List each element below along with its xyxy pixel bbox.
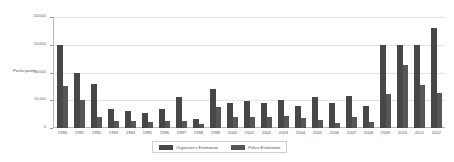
bar-police: [437, 93, 442, 128]
x-tick-label: 1990: [54, 130, 71, 135]
bar-group: [326, 17, 343, 128]
legend-item[interactable]: Police Estimation: [231, 145, 280, 150]
y-tick-mark: [50, 128, 53, 129]
bar-police: [182, 121, 187, 128]
x-tick-label: 2009: [377, 130, 394, 135]
bar-group: [173, 17, 190, 128]
bar-group: [207, 17, 224, 128]
bar-police: [148, 122, 153, 128]
bar-police: [335, 123, 340, 128]
bar-group: [275, 17, 292, 128]
bar-group: [258, 17, 275, 128]
bar-police: [199, 124, 204, 128]
bar-group: [156, 17, 173, 128]
bar-group: [224, 17, 241, 128]
x-tick-label: 2005: [309, 130, 326, 135]
legend-label: Police Estimation: [248, 145, 280, 150]
bar-police: [97, 117, 102, 128]
bar-group: [428, 17, 445, 128]
bar-group: [241, 17, 258, 128]
bar-group: [190, 17, 207, 128]
bar-police: [267, 117, 272, 128]
bar-group: [71, 17, 88, 128]
x-tick-label: 2001: [241, 130, 258, 135]
bar-police: [165, 121, 170, 128]
bar-police: [233, 117, 238, 128]
bar-police: [318, 120, 323, 128]
bar-group: [343, 17, 360, 128]
x-tick-label: 2003: [275, 130, 292, 135]
bar-group: [88, 17, 105, 128]
bar-police: [131, 121, 136, 128]
y-tick-label: 50,000: [34, 98, 46, 102]
bar-police: [63, 86, 68, 128]
x-tick-label: 2000: [224, 130, 241, 135]
x-tick-label: 2006: [326, 130, 343, 135]
bar-group: [122, 17, 139, 128]
x-tick-label: 1991: [71, 130, 88, 135]
bar-police: [403, 65, 408, 128]
bar-chart: 050,000100000150000200000 Participants 1…: [0, 0, 454, 162]
x-tick-label: 1997: [173, 130, 190, 135]
legend-swatch-icon: [231, 145, 245, 150]
legend-label: Organiser's Estimation: [176, 145, 218, 150]
bar-group: [309, 17, 326, 128]
bar-police: [369, 122, 374, 128]
x-tick-label: 2002: [258, 130, 275, 135]
bar-group: [54, 17, 71, 128]
x-tick-label: 2011: [411, 130, 428, 135]
bar-police: [114, 121, 119, 128]
x-tick-label: 1995: [139, 130, 156, 135]
x-tick-label: 1999: [207, 130, 224, 135]
bar-police: [216, 107, 221, 128]
x-tick-label: 1994: [122, 130, 139, 135]
bar-police: [250, 117, 255, 128]
x-axis: 1990199119921993199419951996199719981999…: [54, 130, 445, 135]
bar-group: [377, 17, 394, 128]
y-axis-title: Participants: [13, 68, 37, 73]
bar-police: [80, 100, 85, 128]
bar-group: [411, 17, 428, 128]
bars-layer: [54, 17, 445, 128]
x-tick-label: 1998: [190, 130, 207, 135]
x-tick-label: 2004: [292, 130, 309, 135]
bar-police: [386, 94, 391, 128]
legend-swatch-icon: [159, 145, 173, 150]
bar-group: [139, 17, 156, 128]
x-tick-label: 1992: [88, 130, 105, 135]
bar-group: [105, 17, 122, 128]
x-tick-label: 2010: [394, 130, 411, 135]
y-tick-label: 150000: [33, 43, 46, 47]
x-tick-label: 1993: [105, 130, 122, 135]
x-tick-label: 2007: [343, 130, 360, 135]
bar-police: [352, 117, 357, 128]
bar-group: [292, 17, 309, 128]
bar-group: [394, 17, 411, 128]
legend-item[interactable]: Organiser's Estimation: [159, 145, 218, 150]
bar-police: [420, 85, 425, 128]
chart-legend: Organiser's EstimationPolice Estimation: [152, 141, 287, 153]
bar-police: [284, 116, 289, 128]
y-tick-label: 0: [44, 126, 46, 130]
x-tick-label: 2008: [360, 130, 377, 135]
bar-group: [360, 17, 377, 128]
x-tick-label: 1996: [156, 130, 173, 135]
bar-police: [301, 118, 306, 128]
x-tick-label: 2012: [428, 130, 445, 135]
y-tick-label: 200000: [33, 15, 46, 19]
